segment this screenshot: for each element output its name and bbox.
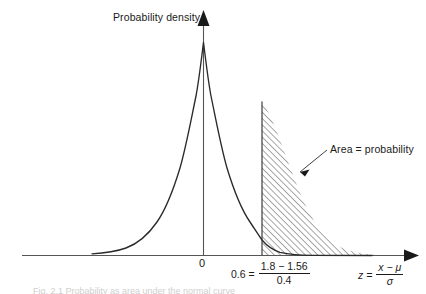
- x-axis-label-fraction: x − μ σ: [376, 262, 403, 288]
- z-value-numerator: 1.8 − 1.56: [259, 261, 310, 274]
- x-axis-label-denominator: σ: [385, 275, 395, 287]
- shaded-tail-area: [255, 95, 390, 257]
- x-axis-label-numerator: x − μ: [376, 262, 403, 275]
- x-axis-label: z = x − μ σ: [358, 262, 403, 288]
- x-axis-arrowhead: [404, 250, 419, 262]
- y-axis-label: Probability density: [113, 12, 200, 23]
- x-tick-label-zero: 0: [199, 258, 205, 269]
- z-value-computation: 0.6 = 1.8 − 1.56 0.4: [231, 261, 310, 287]
- figure-caption: Fig. 2.1 Probability as area under the n…: [33, 286, 235, 294]
- annotation-leader-line: [300, 150, 327, 177]
- z-value-denominator: 0.4: [275, 274, 294, 286]
- normal-distribution-figure: Probability density Area = probability 0…: [0, 0, 426, 294]
- x-axis-label-lead: z =: [358, 270, 372, 281]
- z-value-fraction: 1.8 − 1.56 0.4: [259, 261, 310, 287]
- area-probability-annotation: Area = probability: [330, 144, 414, 155]
- z-value-lead: 0.6 =: [231, 269, 255, 280]
